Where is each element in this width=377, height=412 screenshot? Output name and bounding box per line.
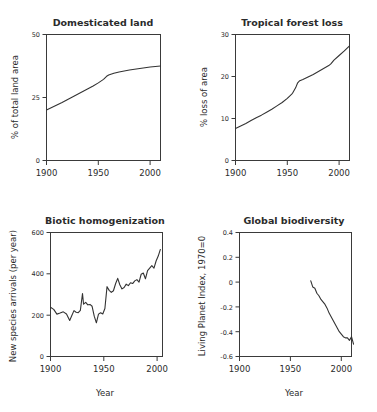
x-tick-label: 1900 bbox=[225, 168, 247, 178]
y-tick-label: 0.4 bbox=[223, 229, 233, 237]
series-line bbox=[236, 46, 350, 129]
y-tick-label: 0 bbox=[36, 157, 40, 165]
y-tick-label: 0 bbox=[40, 353, 44, 361]
chart-title: Global biodiversity bbox=[244, 215, 346, 226]
plot-frame bbox=[236, 35, 350, 161]
x-tick-label: 1950 bbox=[87, 168, 109, 178]
x-axis-label: Year bbox=[284, 388, 304, 398]
chart-title: Tropical forest loss bbox=[241, 17, 343, 28]
chart-panel-biotic-homogenization: Biotic homogenization 0 200 400 600 1900… bbox=[0, 208, 190, 412]
y-axis-label: New species arrivals (per year) bbox=[8, 230, 18, 362]
y-tick-label: 0.2 bbox=[223, 254, 233, 262]
chart-svg-domesticated-land: Domesticated land 0 25 50 1900 1950 2000 bbox=[0, 8, 190, 204]
x-tick-label: 1950 bbox=[276, 168, 298, 178]
y-axis-label: Living Planet Index, 1970=0 bbox=[197, 236, 207, 356]
y-tick-label: -0.6 bbox=[220, 353, 233, 361]
y-tick-label: -0.2 bbox=[220, 304, 233, 312]
y-axis-ticks: 0 200 400 600 bbox=[32, 229, 51, 361]
y-tick-label: 200 bbox=[32, 312, 44, 320]
y-tick-label: 0 bbox=[225, 157, 229, 165]
y-axis-ticks: -0.6 -0.4 -0.2 0 0.2 0.4 bbox=[220, 229, 239, 361]
x-axis-ticks: 1900 1950 2000 bbox=[225, 161, 350, 179]
y-tick-label: -0.4 bbox=[220, 329, 233, 337]
chart-title: Biotic homogenization bbox=[45, 215, 165, 226]
series-line bbox=[47, 66, 161, 110]
y-tick-label: 600 bbox=[32, 229, 44, 237]
x-tick-label: 1900 bbox=[229, 364, 251, 374]
y-axis-label: % loss of area bbox=[199, 67, 209, 127]
y-tick-label: 50 bbox=[32, 31, 40, 39]
y-axis-label: % of total land area bbox=[10, 55, 20, 139]
series-line bbox=[311, 281, 354, 344]
y-tick-label: 25 bbox=[32, 94, 40, 102]
x-tick-label: 2000 bbox=[330, 364, 352, 374]
y-tick-label: 400 bbox=[32, 270, 44, 278]
chart-svg-biotic-homogenization: Biotic homogenization 0 200 400 600 1900… bbox=[0, 208, 190, 412]
x-axis-label: Year bbox=[95, 388, 115, 398]
four-panel-figure: Domesticated land 0 25 50 1900 1950 2000 bbox=[0, 0, 377, 412]
x-axis-ticks: 1900 1950 2000 bbox=[36, 161, 161, 179]
x-tick-label: 1950 bbox=[93, 364, 115, 374]
y-tick-label: 0 bbox=[229, 279, 233, 287]
x-tick-label: 2000 bbox=[139, 168, 161, 178]
x-tick-label: 1900 bbox=[36, 168, 58, 178]
plot-frame bbox=[240, 233, 352, 357]
chart-svg-tropical-forest-loss: Tropical forest loss 0 10 20 30 1900 195… bbox=[189, 8, 377, 204]
x-tick-label: 1900 bbox=[40, 364, 62, 374]
chart-panel-tropical-forest-loss: Tropical forest loss 0 10 20 30 1900 195… bbox=[189, 8, 377, 204]
series-line bbox=[51, 249, 161, 322]
x-axis-ticks: 1900 1950 2000 bbox=[229, 357, 352, 375]
chart-title: Domesticated land bbox=[53, 17, 154, 28]
y-tick-label: 20 bbox=[221, 73, 229, 81]
y-axis-ticks: 0 10 20 30 bbox=[221, 31, 236, 165]
chart-svg-global-biodiversity: Global biodiversity -0.6 -0.4 -0.2 0 0.2… bbox=[189, 208, 377, 412]
plot-frame bbox=[47, 35, 161, 161]
y-tick-label: 30 bbox=[221, 31, 229, 39]
y-axis-ticks: 0 25 50 bbox=[32, 31, 47, 165]
x-tick-label: 1950 bbox=[280, 364, 302, 374]
x-tick-label: 2000 bbox=[328, 168, 350, 178]
chart-panel-global-biodiversity: Global biodiversity -0.6 -0.4 -0.2 0 0.2… bbox=[189, 208, 377, 412]
x-tick-label: 2000 bbox=[146, 364, 168, 374]
chart-panel-domesticated-land: Domesticated land 0 25 50 1900 1950 2000 bbox=[0, 8, 190, 204]
x-axis-ticks: 1900 1950 2000 bbox=[40, 357, 168, 375]
y-tick-label: 10 bbox=[221, 115, 229, 123]
